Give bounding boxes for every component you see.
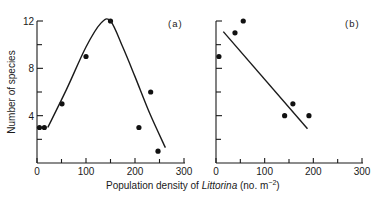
x-tick-label: 200 xyxy=(305,166,322,177)
chart-figure: 01002003004812 0100200300 (a) (b) Number… xyxy=(0,0,382,199)
y-tick-label: 12 xyxy=(23,16,35,27)
fit-line xyxy=(48,19,166,148)
data-point xyxy=(216,54,221,59)
data-point xyxy=(136,125,141,130)
x-tick-label: 100 xyxy=(78,166,95,177)
x-tick-label: 0 xyxy=(34,166,40,177)
y-tick-label: 4 xyxy=(28,111,34,122)
data-point xyxy=(37,125,42,130)
x-tick-label: 100 xyxy=(256,166,273,177)
y-axis-title: Number of species xyxy=(6,50,17,133)
panel-a: 01002003004812 xyxy=(23,16,193,177)
x-axis-title-prefix: Population density of xyxy=(106,180,202,191)
data-point xyxy=(306,113,311,118)
x-tick-label: 300 xyxy=(354,166,371,177)
x-axis-title: Population density of Littorina (no. m−2… xyxy=(106,179,280,191)
x-axis-title-species: Littorina xyxy=(202,180,238,191)
fit-line xyxy=(223,32,307,129)
data-point xyxy=(148,89,153,94)
x-tick-label: 300 xyxy=(176,166,193,177)
x-axis-title-exponent: −2 xyxy=(268,179,276,186)
data-point xyxy=(290,101,295,106)
x-tick-label: 0 xyxy=(213,166,219,177)
panel-b: 0100200300 xyxy=(213,18,371,177)
data-point xyxy=(232,30,237,35)
x-axis-title-units: (no. m xyxy=(237,180,268,191)
panel-b-label: (b) xyxy=(345,18,360,29)
data-point xyxy=(241,18,246,23)
x-axis-title-close: ) xyxy=(276,180,279,191)
panel-a-label: (a) xyxy=(168,18,183,29)
data-point xyxy=(155,149,160,154)
x-tick-label: 200 xyxy=(127,166,144,177)
data-point xyxy=(42,125,47,130)
y-tick-label: 8 xyxy=(28,63,34,74)
data-point xyxy=(83,54,88,59)
data-point xyxy=(282,113,287,118)
